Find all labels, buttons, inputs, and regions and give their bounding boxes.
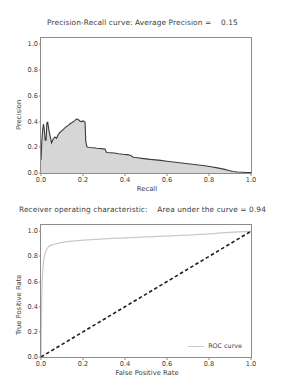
roc-title: Receiver operating characteristic: Area … — [0, 205, 285, 214]
roc-figure: Receiver operating characteristic: Area … — [0, 196, 285, 391]
roc-ytick-label-1: 0.2 — [28, 328, 39, 336]
pr-ytick-label-4: 0.8 — [28, 66, 39, 74]
roc-legend: ROC curve — [185, 339, 247, 353]
pr-ytick-mark-3 — [39, 95, 42, 96]
pr-xtick-label-1: 0.2 — [78, 176, 89, 184]
pr-ytick-label-2: 0.4 — [28, 118, 39, 126]
roc-ytick-mark-4 — [39, 256, 42, 257]
roc-legend-label: ROC curve — [208, 342, 242, 350]
pr-xtick-label-2: 0.4 — [120, 176, 131, 184]
pr-xtick-label-3: 0.6 — [162, 176, 173, 184]
pr-ytick-mark-5 — [39, 44, 42, 45]
pr-ytick-mark-2 — [39, 121, 42, 122]
pr-yaxis-label: Precision — [15, 100, 23, 130]
pr-ytick-label-1: 0.2 — [28, 143, 39, 151]
precision-recall-plot-area: 0.0 0.2 0.4 0.6 0.8 1.0 0.0 0.2 0.4 0.6 … — [40, 37, 252, 174]
roc-xtick-label-5: 1.0 — [246, 360, 257, 368]
precision-recall-figure: Precision-Recall curve: Average Precisio… — [0, 0, 285, 196]
roc-ytick-label-4: 0.8 — [28, 252, 39, 260]
roc-legend-line-icon — [188, 346, 204, 347]
roc-ytick-mark-1 — [39, 331, 42, 332]
precision-recall-area-fill — [41, 119, 251, 173]
pr-ytick-label-5: 1.0 — [28, 40, 39, 48]
roc-curve-svg — [41, 225, 251, 357]
pr-xaxis-label: Recall — [41, 185, 253, 193]
roc-ytick-label-5: 1.0 — [28, 227, 39, 235]
roc-ytick-mark-3 — [39, 281, 42, 282]
pr-ytick-mark-1 — [39, 147, 42, 148]
roc-xtick-label-0: 0.0 — [36, 360, 47, 368]
roc-xtick-label-2: 0.4 — [120, 360, 131, 368]
roc-ytick-mark-2 — [39, 306, 42, 307]
roc-xtick-label-4: 0.8 — [204, 360, 215, 368]
roc-xaxis-label: False Positive Rate — [41, 369, 253, 377]
pr-xtick-label-5: 1.0 — [246, 176, 257, 184]
precision-recall-title: Precision-Recall curve: Average Precisio… — [0, 18, 285, 27]
roc-yaxis-label: True Positive Rate — [15, 274, 23, 335]
roc-plot-area: 0.0 0.2 0.4 0.6 0.8 1.0 0.0 0.2 0.4 0.6 … — [40, 224, 252, 358]
roc-ytick-mark-5 — [39, 231, 42, 232]
roc-xtick-label-3: 0.6 — [162, 360, 173, 368]
roc-ytick-label-3: 0.6 — [28, 278, 39, 286]
roc-xtick-label-1: 0.2 — [78, 360, 89, 368]
pr-xtick-label-0: 0.0 — [36, 176, 47, 184]
pr-ytick-label-3: 0.6 — [28, 92, 39, 100]
precision-recall-curve-svg — [41, 38, 251, 173]
pr-xtick-label-4: 0.8 — [204, 176, 215, 184]
roc-ytick-label-2: 0.4 — [28, 303, 39, 311]
pr-ytick-mark-4 — [39, 70, 42, 71]
